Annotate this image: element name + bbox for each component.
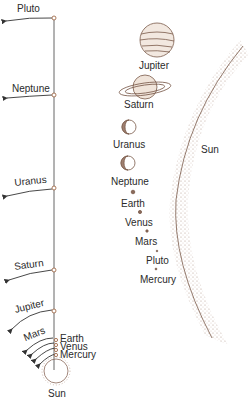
orbit-arrows <box>6 18 56 364</box>
size-label-uranus: Uranus <box>113 140 145 150</box>
size-label-venus: Venus <box>125 218 153 228</box>
large-sun-limb <box>169 40 249 345</box>
jupiter-icon <box>140 23 174 57</box>
venus-icon <box>138 210 141 213</box>
earth-orbit-arrow <box>32 343 54 354</box>
uranus-orbit-arrow <box>7 189 52 196</box>
distance-label-mercury: Mercury <box>60 350 96 360</box>
neptune-icon <box>121 156 135 170</box>
mars-icon <box>146 230 148 232</box>
distance-label-sun: Sun <box>48 389 66 399</box>
size-label-pluto: Pluto <box>146 256 169 266</box>
small-sun-icon <box>42 357 70 385</box>
venus-orbit-arrow <box>36 348 55 359</box>
size-label-earth: Earth <box>121 199 145 209</box>
pluto-icon <box>156 250 158 252</box>
size-label-neptune: Neptune <box>111 177 149 187</box>
size-label-sun: Sun <box>201 145 219 155</box>
solar-system-diagram: Pluto Neptune Uranus Saturn Jupiter Mars… <box>0 0 249 404</box>
distance-label-pluto: Pluto <box>17 4 40 14</box>
size-label-mercury: Mercury <box>140 275 176 285</box>
earth-icon <box>131 190 135 194</box>
uranus-icon <box>122 120 136 134</box>
distance-label-neptune: Neptune <box>12 84 50 94</box>
mercury-icon <box>155 268 157 270</box>
pluto-orbit-arrow <box>6 18 52 21</box>
size-label-mars: Mars <box>135 237 157 247</box>
size-label-jupiter: Jupiter <box>139 61 169 71</box>
size-label-saturn: Saturn <box>124 100 153 110</box>
planet-nodes <box>52 16 58 357</box>
neptune-orbit-arrow <box>7 95 52 98</box>
saturn-icon <box>118 75 171 99</box>
